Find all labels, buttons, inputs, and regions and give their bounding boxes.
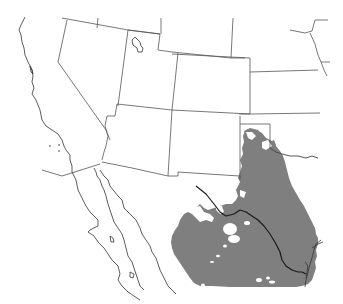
state-borders: [42, 18, 330, 180]
species-range: [171, 128, 318, 287]
range-map: [0, 0, 343, 304]
great-salt-lake: [132, 37, 143, 52]
